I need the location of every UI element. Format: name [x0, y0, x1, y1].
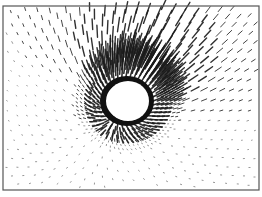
- obstacle-void: [107, 81, 149, 121]
- plot-canvas: [0, 0, 262, 197]
- quiver-plot: [0, 0, 262, 197]
